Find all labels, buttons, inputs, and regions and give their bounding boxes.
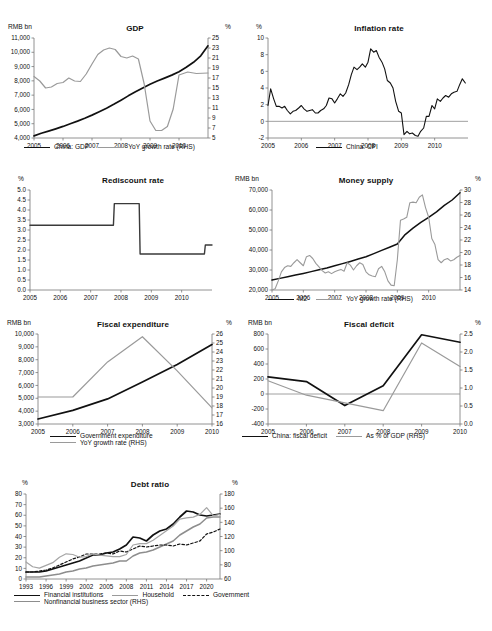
legend-label: Government <box>213 592 249 599</box>
svg-text:26: 26 <box>216 330 224 337</box>
svg-text:2011: 2011 <box>140 583 154 590</box>
svg-text:30: 30 <box>15 543 23 550</box>
svg-text:120: 120 <box>224 533 235 540</box>
svg-text:0: 0 <box>260 118 264 125</box>
svg-text:22: 22 <box>464 236 472 243</box>
legend-gdp: China: GDPYoY growth rate (RHS) <box>24 144 204 151</box>
plot-area-money-supply: 20,00030,00040,00050,00060,00070,0001416… <box>230 186 490 306</box>
svg-text:0.0: 0.0 <box>464 420 473 427</box>
svg-text:2014: 2014 <box>159 583 174 590</box>
svg-text:1.0: 1.0 <box>464 384 473 391</box>
svg-text:10,000: 10,000 <box>15 330 35 337</box>
svg-text:4,000: 4,000 <box>14 134 30 141</box>
legend-label: YoY growth rate (RHS) <box>346 296 413 303</box>
y-axis-label-fiscal-deficit: RMB bn <box>248 319 272 326</box>
svg-text:14: 14 <box>464 286 472 293</box>
svg-text:3.0: 3.0 <box>17 226 26 233</box>
svg-text:10: 10 <box>257 34 265 41</box>
svg-text:13: 13 <box>212 94 220 101</box>
y-axis-right-label-debt-ratio: % <box>232 479 238 486</box>
series-line <box>30 204 212 254</box>
legend-swatch-icon <box>268 299 294 300</box>
svg-text:20: 20 <box>15 554 23 561</box>
svg-text:5,000: 5,000 <box>14 120 30 127</box>
svg-text:26: 26 <box>464 211 472 218</box>
svg-text:17: 17 <box>216 411 224 418</box>
svg-text:4.5: 4.5 <box>17 196 26 203</box>
legend-item: YoY growth rate (RHS) <box>50 440 153 447</box>
y-axis-right-label-fiscal-expenditure: % <box>226 319 232 326</box>
legend-label: YoY growth rate (RHS) <box>128 144 195 151</box>
svg-text:2.0: 2.0 <box>17 246 26 253</box>
svg-text:11,000: 11,000 <box>11 34 30 41</box>
svg-text:0.5: 0.5 <box>17 276 26 283</box>
svg-text:9,000: 9,000 <box>14 63 30 70</box>
legend-swatch-icon <box>336 436 362 437</box>
svg-text:23: 23 <box>212 44 220 51</box>
legend-label: Nonfinancial business sector (RHS) <box>44 599 148 606</box>
legend-swatch-icon <box>24 147 50 148</box>
svg-text:2005: 2005 <box>99 583 114 590</box>
svg-text:9,000: 9,000 <box>18 343 34 350</box>
svg-text:11: 11 <box>212 104 219 111</box>
chart-rediscount: Rediscount rate % 0.00.51.01.52.02.53.03… <box>0 176 240 306</box>
svg-text:16: 16 <box>216 420 224 427</box>
chart-gdp: GDP RMB bn % 4,0005,0006,0007,0008,0009,… <box>0 24 240 164</box>
svg-text:20,000: 20,000 <box>249 286 269 293</box>
svg-text:6,000: 6,000 <box>14 106 30 113</box>
legend-item: China: CPI <box>316 144 378 151</box>
plot-area-debt-ratio: 0102030405060708060801001201401601801993… <box>0 490 250 595</box>
svg-text:23: 23 <box>216 357 224 364</box>
svg-text:25: 25 <box>212 34 220 41</box>
legend-item: China: GDP <box>24 144 89 151</box>
svg-text:19: 19 <box>216 393 224 400</box>
svg-text:21: 21 <box>212 54 220 61</box>
series-line <box>268 335 460 406</box>
svg-text:2005: 2005 <box>261 142 276 149</box>
svg-text:6: 6 <box>260 68 264 75</box>
svg-text:4: 4 <box>260 84 264 91</box>
plot-area-fiscal-deficit: -400-20002004006008000.00.51.01.52.02.52… <box>232 330 490 440</box>
svg-text:1996: 1996 <box>39 583 54 590</box>
svg-text:3,000: 3,000 <box>18 420 34 427</box>
svg-text:5,000: 5,000 <box>18 394 34 401</box>
legend-item: China: fiscal deficit <box>242 433 327 440</box>
series-line <box>268 49 465 137</box>
svg-text:2008: 2008 <box>119 583 134 590</box>
svg-text:7,000: 7,000 <box>18 369 34 376</box>
svg-text:1.0: 1.0 <box>17 266 26 273</box>
svg-text:20: 20 <box>216 384 224 391</box>
svg-text:40: 40 <box>15 533 23 540</box>
legend-swatch-icon <box>316 299 342 300</box>
chart-title-fiscal-expenditure: Fiscal expenditure <box>26 320 240 329</box>
svg-text:180: 180 <box>224 490 235 497</box>
svg-text:0.0: 0.0 <box>17 286 26 293</box>
legend-item: YoY growth rate (RHS) <box>316 296 413 303</box>
legend-swatch-icon <box>98 147 124 148</box>
svg-text:16: 16 <box>464 274 472 281</box>
series-line <box>38 345 212 419</box>
svg-text:21: 21 <box>216 375 224 382</box>
svg-text:5.0: 5.0 <box>17 186 26 193</box>
svg-text:1999: 1999 <box>59 583 74 590</box>
legend-item: Nonfinancial business sector (RHS) <box>14 599 148 606</box>
svg-text:100: 100 <box>224 547 235 554</box>
svg-text:30,000: 30,000 <box>249 266 269 273</box>
y-axis-label-money-supply: RMB bn <box>235 175 259 182</box>
legend-fiscal-expenditure: Government expenditureYoY growth rate (R… <box>50 433 162 446</box>
chart-title-fiscal-deficit: Fiscal deficit <box>246 320 492 329</box>
series-line <box>26 529 220 572</box>
series-line <box>26 511 220 572</box>
svg-text:2010: 2010 <box>453 428 468 435</box>
legend-swatch-icon <box>316 147 342 148</box>
svg-text:2005: 2005 <box>31 428 46 435</box>
svg-text:1993: 1993 <box>19 583 34 590</box>
legend-debt-ratio: Financial institutionsHouseholdGovernmen… <box>14 592 354 605</box>
svg-text:50: 50 <box>15 522 23 529</box>
svg-text:0.5: 0.5 <box>464 402 473 409</box>
svg-text:2009: 2009 <box>144 294 159 301</box>
y-axis-right-label-money-supply: % <box>475 175 481 182</box>
svg-text:4,000: 4,000 <box>18 407 34 414</box>
legend-money-supply: M2YoY growth rate (RHS) <box>268 296 422 303</box>
svg-text:2006: 2006 <box>53 294 68 301</box>
